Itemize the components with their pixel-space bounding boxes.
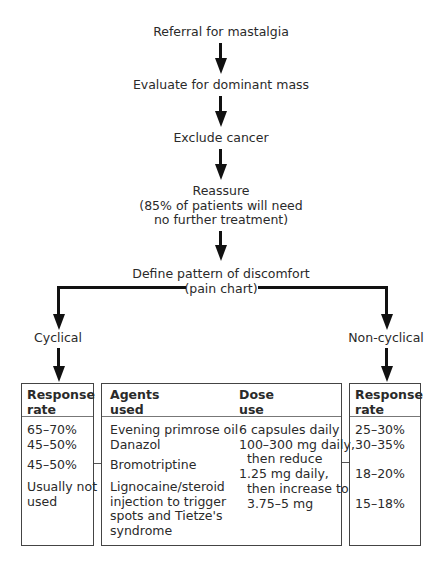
- cyclical-rate-row-3: Usually not used: [27, 480, 97, 509]
- step-define-pattern: Define pattern of discomfort (pain chart…: [132, 266, 309, 296]
- noncyclical-response-header: Response rate: [355, 387, 423, 417]
- agent-row-2: Bromotriptine: [110, 458, 196, 473]
- arrow-shaft-2: [219, 96, 222, 112]
- arrow-down-icon: [215, 164, 227, 180]
- arrow-down-icon: [381, 366, 393, 382]
- header-divider: [22, 416, 93, 417]
- cyclical-response-box: Response rate 65–70% 45–50% 45–50% Usual…: [21, 383, 94, 546]
- agent-row-3: Lignocaine/steroid injection to trigger …: [110, 480, 226, 539]
- branch-cyclical: Cyclical: [34, 331, 82, 345]
- arrow-down-icon: [53, 366, 65, 382]
- arrow-shaft-3: [219, 149, 222, 165]
- header-divider: [102, 416, 341, 417]
- bracket-left-vertical: [57, 286, 60, 316]
- step-referral: Referral for mastalgia: [153, 25, 289, 39]
- arrow-down-icon: [215, 58, 227, 74]
- agent-row-1: Evening primrose oil Danazol: [110, 423, 238, 452]
- cyclical-response-header: Response rate: [27, 387, 95, 417]
- header-divider: [350, 416, 420, 417]
- step-evaluate-mass: Evaluate for dominant mass: [133, 78, 309, 92]
- noncyclical-response-box: Response rate 25–30% 30–35% 18–20% 15–18…: [349, 383, 421, 546]
- arrow-shaft-right: [385, 348, 388, 368]
- bracket-right-horizontal: [258, 286, 388, 289]
- arrow-down-icon: [215, 111, 227, 127]
- branch-non-cyclical: Non-cyclical: [348, 331, 424, 345]
- arrow-down-icon: [381, 314, 393, 330]
- agents-dose-box: Agents used Dose use Evening primrose oi…: [101, 383, 342, 546]
- noncyclical-rate-row-1: 25–30% 30–35%: [355, 423, 405, 452]
- arrow-down-icon: [53, 314, 65, 330]
- connector-left: [94, 463, 101, 464]
- connector-right: [342, 462, 349, 463]
- dose-header: Dose use: [239, 387, 274, 417]
- cyclical-rate-row-2: 45–50%: [27, 458, 77, 473]
- arrow-shaft-1: [219, 43, 222, 59]
- step-reassure: Reassure (85% of patients will need no f…: [139, 184, 302, 228]
- arrow-shaft-left: [57, 348, 60, 368]
- cyclical-rate-row-1: 65–70% 45–50%: [27, 423, 77, 452]
- noncyclical-rate-row-3: 15–18%: [355, 497, 405, 512]
- step-exclude-cancer: Exclude cancer: [173, 131, 268, 145]
- arrow-down-icon: [215, 245, 227, 261]
- dose-column: 6 capsules daily 100–300 mg daily, then …: [239, 423, 355, 511]
- bracket-left-horizontal: [57, 286, 186, 289]
- noncyclical-rate-row-2: 18–20%: [355, 467, 405, 482]
- bracket-right-vertical: [385, 286, 388, 316]
- agents-header: Agents used: [110, 387, 159, 417]
